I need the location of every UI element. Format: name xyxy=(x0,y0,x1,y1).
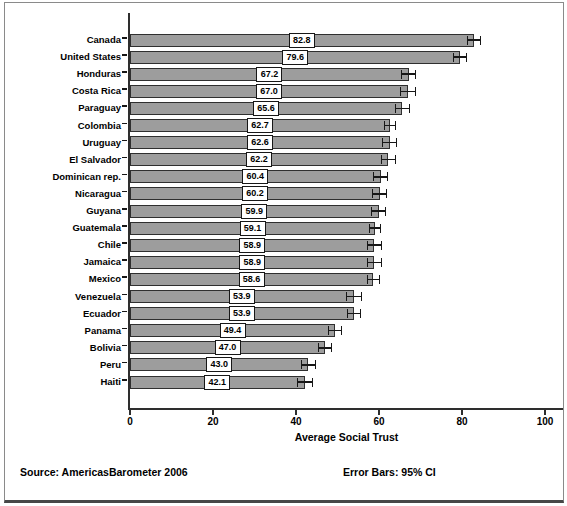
value-label: 65.6 xyxy=(253,101,279,116)
error-bar xyxy=(318,343,332,352)
value-label: 60.4 xyxy=(242,169,268,184)
country-label: Venezuela xyxy=(75,291,121,303)
error-bar xyxy=(395,104,410,113)
country-label: Bolivia xyxy=(90,342,121,354)
y-axis-tick xyxy=(122,37,127,39)
country-label: Colombia xyxy=(78,120,121,132)
value-label: 47.0 xyxy=(215,340,241,355)
y-axis-tick xyxy=(122,225,127,227)
x-axis-tick-label: 80 xyxy=(447,416,477,427)
value-label: 59.9 xyxy=(241,204,267,219)
y-axis-tick xyxy=(122,276,127,278)
y-axis-tick xyxy=(122,294,127,296)
value-label: 60.2 xyxy=(242,186,268,201)
y-axis-tick xyxy=(122,259,127,261)
error-bar xyxy=(297,378,313,387)
value-label: 67.2 xyxy=(256,67,282,82)
error-bar xyxy=(369,224,381,233)
error-bar xyxy=(371,207,386,216)
value-label: 62.6 xyxy=(247,135,273,150)
error-bar xyxy=(367,275,380,284)
x-axis-tick xyxy=(544,410,546,415)
error-bar xyxy=(367,241,382,250)
value-label: 59.1 xyxy=(240,221,266,236)
value-label: 62.7 xyxy=(247,118,273,133)
y-axis-tick xyxy=(122,88,127,90)
value-label: 42.1 xyxy=(204,375,230,390)
country-label: Ecuador xyxy=(83,308,121,320)
value-label: 82.8 xyxy=(289,33,315,48)
country-label: Mexico xyxy=(89,273,121,285)
error-bar xyxy=(373,172,388,181)
x-axis-title: Average Social Trust xyxy=(130,431,563,443)
country-label: United States xyxy=(60,51,121,63)
country-label: Costa Rica xyxy=(72,85,121,97)
value-label: 67.0 xyxy=(256,84,282,99)
figure-frame: Average Social Trust Canada82.8United St… xyxy=(4,2,564,503)
error-bar xyxy=(381,155,396,164)
y-axis-tick xyxy=(122,71,127,73)
value-label: 58.6 xyxy=(239,272,265,287)
value-label: 53.9 xyxy=(229,289,255,304)
value-label: 43.0 xyxy=(206,357,232,372)
x-axis-tick-label: 20 xyxy=(198,416,228,427)
country-label: Paraguay xyxy=(78,102,121,114)
country-label: Nicaragua xyxy=(75,188,121,200)
country-label: Guyana xyxy=(86,205,121,217)
error-bar xyxy=(453,53,467,62)
source-note: Source: AmericasBarometer 2006 xyxy=(20,466,188,478)
x-axis-tick-label: 60 xyxy=(364,416,394,427)
x-axis-tick xyxy=(129,410,131,415)
error-bar xyxy=(384,121,396,130)
value-label: 58.9 xyxy=(239,255,265,270)
country-label: Canada xyxy=(87,34,121,46)
plot-area: Average Social Trust Canada82.8United St… xyxy=(128,13,563,410)
y-axis-tick xyxy=(122,54,127,56)
country-label: Uruguay xyxy=(82,137,121,149)
error-bar xyxy=(401,70,416,79)
x-axis-tick-label: 100 xyxy=(530,416,560,427)
x-axis-tick xyxy=(295,410,297,415)
x-axis-tick xyxy=(461,410,463,415)
error-bar xyxy=(301,360,316,369)
y-axis-tick xyxy=(122,174,127,176)
x-axis-tick-label: 0 xyxy=(115,416,145,427)
country-label: Guatemala xyxy=(72,222,121,234)
country-label: Chile xyxy=(98,239,121,251)
error-bar xyxy=(367,258,382,267)
country-label: Peru xyxy=(100,359,121,371)
y-axis-tick xyxy=(122,191,127,193)
y-axis-tick xyxy=(122,105,127,107)
error-bar xyxy=(347,309,361,318)
error-bars-note: Error Bars: 95% CI xyxy=(343,466,436,478)
error-bar xyxy=(467,36,481,45)
value-label: 62.2 xyxy=(246,152,272,167)
x-axis-tick xyxy=(212,410,214,415)
y-axis-tick xyxy=(122,311,127,313)
screenshot-root: { "chart_data": { "type": "bar", "orient… xyxy=(0,0,567,506)
y-axis-tick xyxy=(122,242,127,244)
y-axis-tick xyxy=(122,362,127,364)
y-axis-tick xyxy=(122,140,127,142)
y-axis-tick xyxy=(122,123,127,125)
country-label: Jamaica xyxy=(83,256,121,268)
value-label: 79.6 xyxy=(282,50,308,65)
country-label: Dominican rep. xyxy=(52,171,121,183)
value-label: 53.9 xyxy=(229,306,255,321)
y-axis-tick xyxy=(122,208,127,210)
y-axis-tick xyxy=(122,345,127,347)
error-bar xyxy=(382,138,397,147)
country-label: Panama xyxy=(85,325,121,337)
error-bar xyxy=(328,326,343,335)
country-label: Honduras xyxy=(77,68,121,80)
error-bar xyxy=(372,189,387,198)
error-bar xyxy=(346,292,362,301)
value-label: 58.9 xyxy=(239,238,265,253)
y-axis-tick xyxy=(122,157,127,159)
error-bar xyxy=(400,87,416,96)
country-label: El Salvador xyxy=(69,154,121,166)
y-axis-tick xyxy=(122,328,127,330)
y-axis-tick xyxy=(122,379,127,381)
country-label: Haiti xyxy=(100,376,121,388)
x-axis-tick-label: 40 xyxy=(281,416,311,427)
